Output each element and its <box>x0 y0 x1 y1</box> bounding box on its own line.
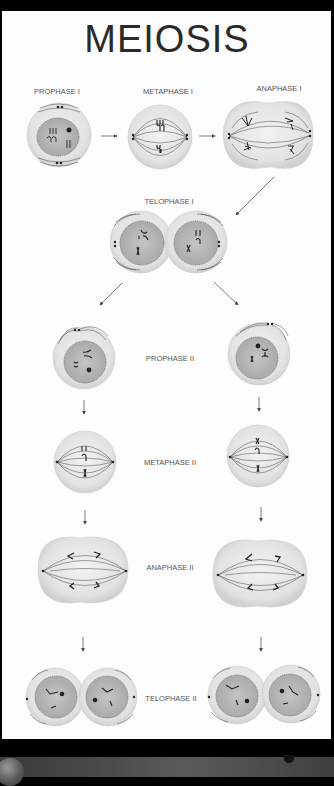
arrow-icon <box>236 177 274 215</box>
dark-blob <box>284 755 294 763</box>
cell-metaphase-1 <box>128 105 192 169</box>
cell-anaphase-1 <box>223 102 313 169</box>
arrow-icon <box>214 282 238 305</box>
cell-metaphase-2-right <box>227 425 289 487</box>
cell-telophase-2-right <box>208 665 320 724</box>
cell-anaphase-2-left <box>38 537 128 603</box>
light-bulb-shape <box>0 758 24 786</box>
cell-anaphase-2-right <box>213 540 307 607</box>
cell-telophase-2-left <box>26 668 137 726</box>
cell-metaphase-2-left <box>54 431 116 493</box>
cell-telophase-1 <box>110 211 227 273</box>
cell-prophase-2-left <box>53 327 115 389</box>
cell-prophase-1 <box>27 103 91 167</box>
arrow-icon <box>100 283 122 305</box>
cell-prophase-2-right <box>228 323 290 385</box>
